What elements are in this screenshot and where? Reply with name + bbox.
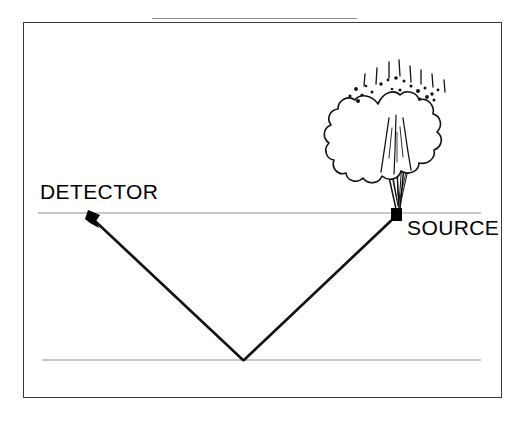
explosion-cloud-outline bbox=[324, 92, 441, 183]
source-marker-icon bbox=[391, 208, 402, 221]
detector-label: DETECTOR bbox=[40, 180, 158, 204]
ray-path-downgoing bbox=[244, 216, 396, 360]
debris-streak-marks bbox=[364, 60, 445, 92]
figure-page: Figure 5.1. Seismic Survey bbox=[0, 0, 507, 421]
seismic-survey-diagram bbox=[0, 0, 507, 421]
ray-path-upgoing bbox=[95, 221, 243, 360]
source-label: SOURCE bbox=[407, 216, 499, 240]
